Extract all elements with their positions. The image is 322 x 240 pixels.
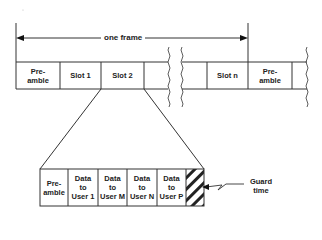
guard-time-label: Guard time	[244, 176, 278, 196]
bottom-cell-user-m: Data to User M	[98, 169, 127, 206]
one-frame-label: one frame	[101, 33, 145, 43]
guard-time-block	[186, 169, 204, 206]
top-cell-slot-2: Slot 2	[101, 62, 144, 89]
wavy-break-2	[181, 47, 183, 107]
top-cell-preamble: Pre- amble	[16, 62, 60, 89]
wavy-break-1	[168, 47, 170, 107]
bottom-cell-user-p: Data to User P	[157, 169, 186, 206]
top-cell-preamble-next: Pre- amble	[248, 62, 292, 89]
bottom-cell-user-1: Data to User 1	[68, 169, 98, 206]
bottom-cell-preamble: Pre- amble	[40, 169, 68, 206]
expansion-line-left	[40, 89, 101, 169]
wavy-break-3	[306, 47, 308, 107]
guard-time-pointer	[202, 184, 244, 190]
top-cell-slot-1: Slot 1	[60, 62, 101, 89]
expansion-line-right	[144, 89, 204, 169]
bottom-cell-user-n: Data to User N	[127, 169, 157, 206]
top-cell-slot-n: Slot n	[207, 62, 248, 89]
